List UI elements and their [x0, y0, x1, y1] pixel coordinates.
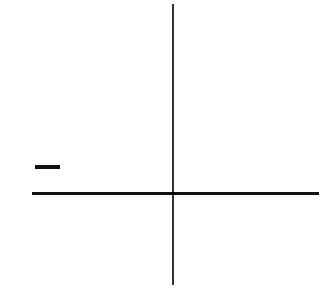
minus-sign-icon [35, 165, 60, 169]
origin-point [171, 192, 175, 195]
axes-diagram [0, 0, 328, 288]
vertical-axis [172, 4, 174, 285]
horizontal-axis [32, 192, 319, 195]
